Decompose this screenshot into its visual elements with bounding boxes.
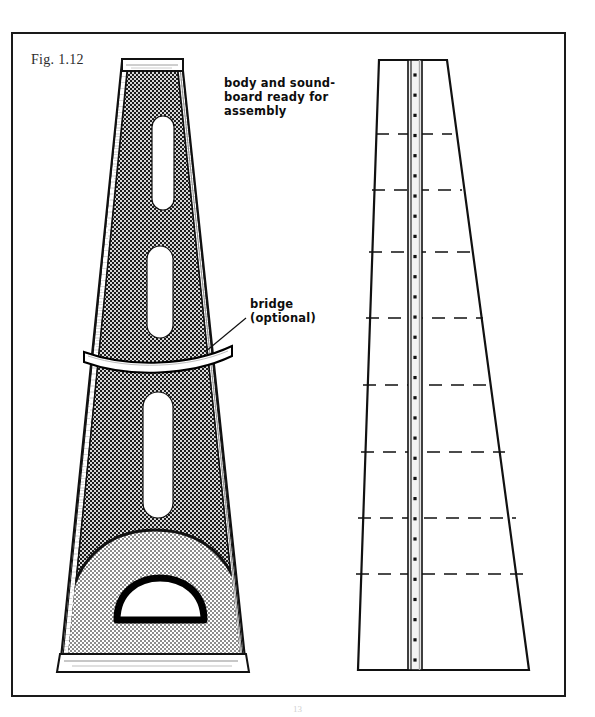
- illustration-page: Fig. 1.12 body and sound- board ready fo…: [0, 0, 595, 717]
- figure-frame: [11, 32, 566, 697]
- bridge-note: bridge (optional): [250, 297, 316, 325]
- assembly-note: body and sound- board ready for assembly: [224, 76, 335, 118]
- page-number: 13: [0, 704, 595, 714]
- figure-number-label: Fig. 1.12: [31, 52, 84, 68]
